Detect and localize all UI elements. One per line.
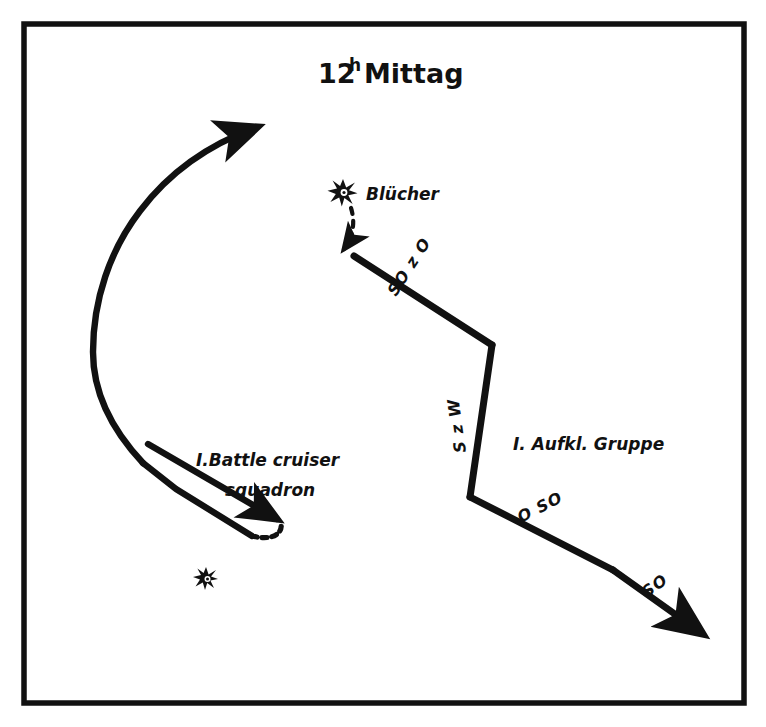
title-word: Mittag xyxy=(364,58,463,89)
wreck-marker-lower-left xyxy=(193,567,218,590)
label-battle-cruiser-squadron-line1: I.Battle cruiser xyxy=(196,450,341,470)
diagram-border xyxy=(24,24,744,703)
track-battle-cruiser-squadron: I.Battle cruiser squadron xyxy=(93,128,341,538)
diagram-page: 12 h Mittag I.Battle cruiser squadron xyxy=(0,0,766,727)
track-aufklaerungs-gruppe: SO z O S z W O SO SO I. Aufkl. Gruppe xyxy=(354,234,700,632)
title-superscript: h xyxy=(349,55,361,75)
bearing-label-s-z-w: S z W xyxy=(443,397,469,454)
bluecher-starburst-icon xyxy=(328,179,358,207)
page-title: 12 h Mittag xyxy=(318,55,463,89)
naval-track-diagram: 12 h Mittag I.Battle cruiser squadron xyxy=(0,0,766,727)
battle-cruiser-dashed-turn xyxy=(252,523,281,538)
battle-cruiser-curve xyxy=(93,128,255,463)
bluecher-dashed-connector xyxy=(344,208,353,249)
label-battle-cruiser-squadron-line2: squadron xyxy=(225,480,315,500)
aufkl-leg-1 xyxy=(354,256,492,345)
label-aufkl-gruppe: I. Aufkl. Gruppe xyxy=(513,434,664,454)
bearing-label-so: SO xyxy=(638,570,671,601)
aufkl-leg-2 xyxy=(470,345,492,497)
label-bluecher: Blücher xyxy=(366,184,441,204)
bearing-label-o-so: O SO xyxy=(514,488,566,527)
